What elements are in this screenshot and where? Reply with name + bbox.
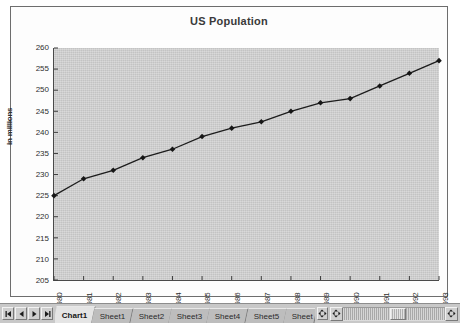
scrollbar-thumb[interactable] [390,308,406,320]
plot-area[interactable] [53,48,439,281]
previous-arrow-icon [17,310,26,318]
sheet-tab-chart1[interactable]: Chart1 [55,306,96,323]
sheet-tab-sheet2[interactable]: Sheet2 [130,308,173,323]
first-arrow-icon [4,310,13,318]
data-series-line[interactable] [54,48,439,280]
data-point-marker[interactable] [199,134,205,140]
sheet-tab-sheet5[interactable]: Sheet5 [245,308,288,323]
sheet-tab-label: Chart1 [62,307,87,323]
sheet-tab-label: Sheet4 [215,309,240,323]
y-axis-title[interactable]: in millions [5,108,14,145]
y-tick-label: 205 [15,277,49,285]
scroll-left-arrow-icon [332,309,341,318]
y-tick-label: 260 [15,44,49,52]
data-point-marker[interactable] [81,176,87,182]
data-point-marker[interactable] [259,119,265,125]
y-tick-label: 245 [15,108,49,116]
data-point-marker[interactable] [318,100,324,106]
tab-splitter-icon [318,309,327,318]
next-arrow-icon [30,310,39,318]
next-sheet-button[interactable] [28,307,40,320]
sheet-navigation-buttons [0,307,53,320]
data-point-marker[interactable] [110,168,116,174]
scroll-right-arrow-icon [447,309,456,318]
scroll-left-button[interactable] [330,307,343,321]
y-tick-label: 235 [15,150,49,158]
series-line[interactable] [54,61,439,196]
data-point-marker[interactable] [170,146,176,152]
scroll-right-button[interactable] [445,307,458,321]
y-axis[interactable]: 260255250245240235230225220215210205 [11,7,49,296]
sheet-tab-label: Sheet1 [100,309,125,323]
chart-title[interactable]: US Population [11,15,447,27]
tab-splitter-handle[interactable] [317,307,328,320]
sheet-tab-sheet3[interactable]: Sheet3 [168,308,211,323]
first-sheet-button[interactable] [2,307,14,320]
y-tick-label: 215 [15,235,49,243]
y-tick-label: 210 [15,256,49,264]
data-point-marker[interactable] [140,155,146,161]
data-point-marker[interactable] [51,193,57,199]
data-point-marker[interactable] [407,71,413,77]
previous-sheet-button[interactable] [15,307,27,320]
sheet-tab-sheet[interactable]: Sheet [284,308,316,323]
data-point-marker[interactable] [288,108,294,114]
scrollbar-track[interactable] [343,307,445,321]
chart-sheet-frame[interactable]: US Population 26025525024524023523022522… [10,6,448,297]
last-arrow-icon [43,310,52,318]
sheet-tabs: Chart1Sheet1Sheet2Sheet3Sheet4Sheet5Shee… [55,305,315,323]
y-tick-label: 230 [15,171,49,179]
sheet-tab-sheet1[interactable]: Sheet1 [92,308,135,323]
last-sheet-button[interactable] [41,307,53,320]
sheet-tab-label: Sheet5 [254,309,279,323]
y-tick-label: 225 [15,192,49,200]
sheet-tab-sheet4[interactable]: Sheet4 [207,308,250,323]
data-point-marker[interactable] [377,83,383,89]
sheet-tab-bar: Chart1Sheet1Sheet2Sheet3Sheet4Sheet5Shee… [0,303,460,323]
data-point-marker[interactable] [347,96,353,102]
y-tick-label: 240 [15,129,49,137]
sheet-tab-label: Sheet2 [138,309,163,323]
data-point-marker[interactable] [229,125,235,131]
data-point-marker[interactable] [436,58,442,64]
y-tick-label: 255 [15,65,49,73]
y-tick-label: 250 [15,86,49,94]
horizontal-scrollbar[interactable] [330,307,458,321]
sheet-tab-label: Sheet [292,309,313,323]
y-tick-label: 220 [15,213,49,221]
sheet-tab-label: Sheet3 [177,309,202,323]
